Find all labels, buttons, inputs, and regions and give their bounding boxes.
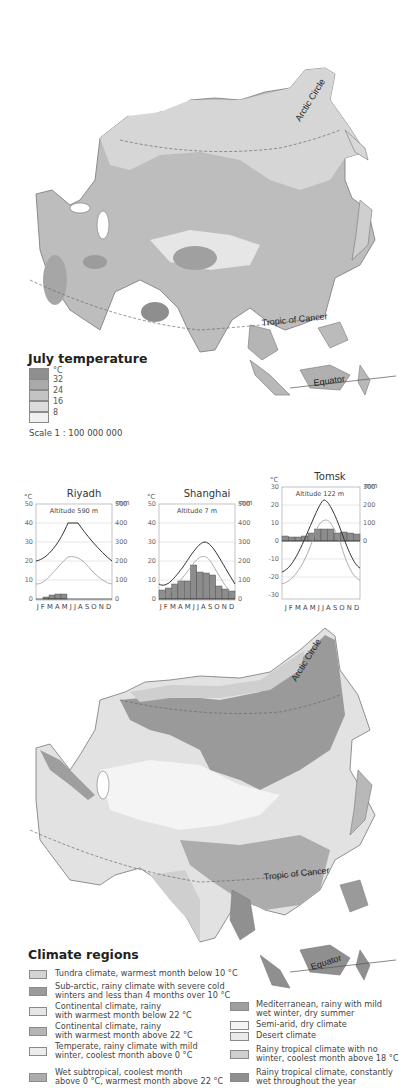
riyadh-altitude: Altitude 590 m (50, 507, 98, 515)
svg-text:-20: -20 (268, 573, 279, 581)
iran-hot-zone (83, 255, 107, 269)
svg-text:300: 300 (363, 483, 375, 491)
svg-text:40: 40 (25, 519, 33, 527)
svg-text:0: 0 (152, 595, 156, 603)
climate-label-semi-arid: Semi-arid, dry climate (256, 1020, 347, 1030)
climate-label-temperate-line2: winter, coolest month above 0 °C (55, 1051, 192, 1061)
climate-swatch-tropical-wet (230, 1073, 249, 1082)
shanghai-title: Shanghai (184, 488, 231, 499)
svg-text:0: 0 (115, 595, 119, 603)
climate-swatch-desert (230, 1032, 249, 1041)
riyadh-month-axis: J F M A M J J A S O N D (36, 603, 112, 611)
climate-swatch-continental-cool (29, 1007, 47, 1016)
svg-text:-10: -10 (268, 555, 279, 563)
tomsk-title: Tomsk (313, 471, 345, 482)
temperature-swatch-16-24 (29, 390, 49, 401)
indonesia-area-bottom: Equator (260, 930, 396, 990)
shanghai-chart-graphic: Shanghai °C mm Altitude 7 m 50 40 30 20 … (145, 487, 267, 612)
svg-text:0: 0 (238, 595, 242, 603)
caspian-sea (97, 771, 109, 799)
climate-label-tropical-no-winter-line2: winter, coolest month above 18 °C (256, 1054, 399, 1064)
climate-chart-shanghai: Shanghai °C mm Altitude 7 m 50 40 30 20 … (145, 487, 267, 612)
svg-text:500: 500 (238, 500, 250, 508)
climate-swatch-tropical-no-winter (230, 1050, 249, 1059)
svg-text:500: 500 (115, 500, 127, 508)
temperature-tick-32: 32 (53, 375, 63, 384)
asia-temperature-map-graphic: Arctic Circle Tropic of Cancer (0, 30, 396, 360)
climate-swatch-mediterranean (230, 1002, 249, 1011)
shanghai-month-axis: J F M A M J J A S O N D (159, 603, 235, 611)
svg-text:-30: -30 (268, 591, 279, 599)
climate-label-tundra: Tundra climate, warmest month below 10 °… (55, 969, 238, 979)
riyadh-title: Riyadh (67, 488, 101, 499)
riyadh-chart-graphic: Riyadh °C mm Altitude 590 m 50 40 30 20 … (22, 487, 144, 612)
svg-text:10: 10 (271, 519, 279, 527)
svg-text:200: 200 (363, 501, 375, 509)
svg-text:100: 100 (238, 576, 250, 584)
svg-text:20: 20 (148, 557, 156, 565)
climate-chart-tomsk: Tomsk °C mm Altitude 122 m 30 20 10 0 -1… (268, 470, 396, 612)
climate-swatch-tundra (29, 970, 47, 979)
shanghai-altitude: Altitude 7 m (177, 507, 217, 515)
temperature-tick-24: 24 (53, 386, 63, 395)
climate-label-wet-subtropical-line2: above 0 °C, warmest month above 22 °C (55, 1077, 223, 1087)
svg-text:50: 50 (148, 500, 156, 508)
temperature-unit-label: °C (53, 366, 63, 375)
july-temperature-legend-title: July temperature (28, 351, 147, 366)
climate-swatch-temperate (29, 1047, 47, 1056)
temperature-swatch-24-32 (29, 379, 49, 390)
climate-label-mediterranean-line2: wet winter, dry summer (256, 1009, 354, 1019)
climate-label-tropical-wet-line2: wet throughout the year (256, 1077, 356, 1087)
svg-text:300: 300 (238, 538, 250, 546)
svg-text:50: 50 (25, 500, 33, 508)
climate-swatch-continental-warm (29, 1027, 47, 1036)
svg-text:100: 100 (363, 519, 375, 527)
svg-text:10: 10 (25, 576, 33, 584)
indonesia-islands-graphic: Equator (230, 340, 396, 400)
temperature-swatch-above-32 (29, 368, 49, 379)
svg-text:300: 300 (115, 538, 127, 546)
svg-text:20: 20 (271, 501, 279, 509)
svg-text:40: 40 (148, 519, 156, 527)
indus-hot-zone (141, 302, 169, 322)
tomsk-chart-graphic: Tomsk °C mm Altitude 122 m 30 20 10 0 -1… (268, 470, 396, 612)
svg-text:30: 30 (25, 538, 33, 546)
map-scale-label: Scale 1 : 100 000 000 (29, 428, 122, 438)
july-temperature-map: Arctic Circle Tropic of Cancer (0, 30, 396, 360)
black-sea (70, 203, 90, 213)
climate-chart-riyadh: Riyadh °C mm Altitude 590 m 50 40 30 20 … (22, 487, 144, 612)
temperature-swatch-below-8 (29, 412, 49, 423)
svg-text:200: 200 (115, 557, 127, 565)
svg-text:0: 0 (363, 537, 367, 545)
tarim-hot-zone (173, 246, 217, 270)
climate-label-desert: Desert climate (256, 1031, 316, 1041)
svg-text:400: 400 (115, 519, 127, 527)
svg-text:0: 0 (29, 595, 33, 603)
svg-text:10: 10 (148, 576, 156, 584)
svg-text:100: 100 (115, 576, 127, 584)
asia-climate-map-graphic: Arctic Circle Tropic of Cancer (0, 620, 396, 950)
climate-label-continental-warm-line2: with warmest month above 22 °C (55, 1031, 193, 1041)
temperature-tick-8: 8 (53, 408, 58, 417)
svg-text:20: 20 (25, 557, 33, 565)
tomsk-month-axis: J F M A M J J A S O N D (284, 604, 360, 612)
climate-regions-map: Arctic Circle Tropic of Cancer (0, 620, 396, 950)
caspian-sea (97, 211, 109, 239)
climate-label-subarctic-line2: winters and less than 4 months over 10 °… (55, 991, 230, 1001)
temperature-tick-16: 16 (53, 397, 63, 406)
philippines (340, 880, 368, 912)
indonesia-area-top: Equator (230, 340, 396, 400)
indonesia-climate-graphic: Equator (260, 930, 396, 990)
climate-regions-legend-title: Climate regions (28, 947, 139, 962)
svg-text:30: 30 (271, 483, 279, 491)
tomsk-altitude: Altitude 122 m (296, 490, 344, 498)
svg-text:400: 400 (238, 519, 250, 527)
svg-text:0: 0 (275, 537, 279, 545)
climate-label-continental-cool-line2: with warmest month below 22 °C (55, 1011, 192, 1021)
temperature-swatch-8-16 (29, 401, 49, 412)
climate-swatch-semi-arid (230, 1021, 249, 1030)
arabia-hot-zone (43, 255, 67, 305)
climate-swatch-wet-subtropical (29, 1073, 47, 1082)
climate-swatch-subarctic (29, 987, 47, 996)
svg-text:200: 200 (238, 557, 250, 565)
